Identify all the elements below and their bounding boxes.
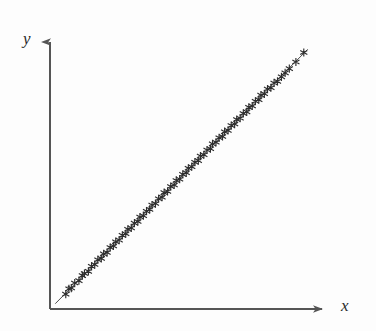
plot-canvas	[0, 0, 376, 331]
y-axis-label: y	[23, 30, 31, 47]
data-point-markers	[62, 48, 307, 298]
data-point-marker	[274, 77, 281, 85]
scatter-plot-figure: y x	[0, 0, 376, 331]
x-axis-label: x	[341, 297, 349, 314]
